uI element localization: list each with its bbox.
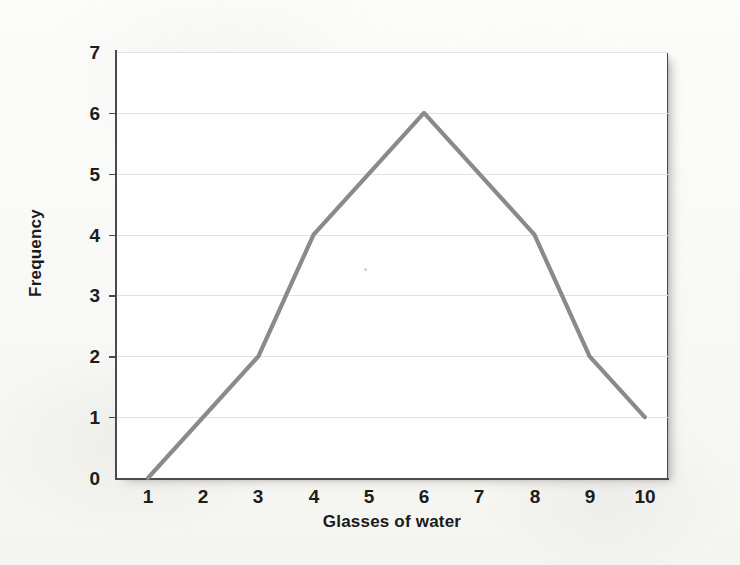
y-tick-label-7: 7 [60, 43, 100, 62]
x-tick-label-8: 8 [513, 487, 557, 506]
y-tick-label-4: 4 [60, 226, 100, 245]
x-axis-title: Glasses of water [116, 512, 668, 532]
y-tick-mark-4 [109, 235, 116, 236]
x-tick-label-10: 10 [623, 487, 667, 506]
gridline-y6 [116, 113, 668, 114]
x-tick-label-9: 9 [568, 487, 612, 506]
x-tick-label-2: 2 [181, 487, 225, 506]
y-tick-mark-5 [109, 174, 116, 175]
y-tick-label-2: 2 [60, 347, 100, 366]
y-tick-label-0: 0 [60, 469, 100, 488]
gridline-y4 [116, 235, 668, 236]
scan-speck [364, 268, 367, 271]
x-tick-label-5: 5 [347, 487, 391, 506]
x-tick-label-6: 6 [402, 487, 446, 506]
x-axis-line [115, 478, 669, 480]
y-tick-label-6: 6 [60, 104, 100, 123]
gridline-y7 [116, 52, 668, 53]
x-tick-label-7: 7 [457, 487, 501, 506]
gridline-y1 [116, 417, 668, 418]
y-tick-mark-2 [109, 356, 116, 357]
y-tick-mark-1 [109, 417, 116, 418]
y-tick-label-5: 5 [60, 165, 100, 184]
gridline-y5 [116, 174, 668, 175]
gridline-y2 [116, 356, 668, 357]
x-tick-label-4: 4 [292, 487, 336, 506]
gridline-y3 [116, 295, 668, 296]
y-tick-mark-6 [109, 113, 116, 114]
y-tick-label-group: 7 6 5 4 3 2 1 0 [52, 0, 100, 565]
y-tick-mark-3 [109, 295, 116, 296]
frequency-polygon-chart: 7 6 5 4 3 2 1 0 1 2 3 4 5 6 7 8 9 10 Gla… [0, 0, 740, 565]
y-tick-label-1: 1 [60, 408, 100, 427]
y-axis-title: Frequency [26, 183, 46, 323]
plot-right-border [667, 52, 669, 478]
y-axis-line [115, 50, 117, 480]
plot-area [116, 52, 668, 478]
x-tick-label-1: 1 [126, 487, 170, 506]
x-tick-label-3: 3 [236, 487, 280, 506]
y-tick-label-3: 3 [60, 286, 100, 305]
